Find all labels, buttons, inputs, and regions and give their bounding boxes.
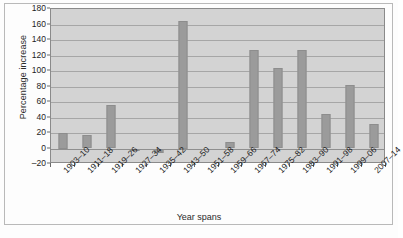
bar	[298, 50, 307, 148]
bar-slot	[314, 9, 338, 162]
bar-slot	[242, 9, 266, 162]
bar-slot	[362, 9, 385, 162]
x-axis-title: Year spans	[0, 212, 398, 222]
bar	[178, 21, 187, 149]
bar	[58, 133, 67, 149]
y-tick-label: 0	[16, 143, 46, 153]
bar-slot	[219, 9, 243, 162]
plot-area	[50, 8, 385, 163]
y-tick-label: 120	[16, 50, 46, 60]
bar	[346, 85, 355, 149]
y-tick-label: 40	[16, 112, 46, 122]
y-tick-label: 80	[16, 81, 46, 91]
bar-slot	[171, 9, 195, 162]
y-axis-tick-labels: 180160140120100806040200–20	[16, 8, 46, 163]
bar	[274, 68, 283, 149]
y-tick-label: 60	[16, 96, 46, 106]
y-tick-label: 160	[16, 19, 46, 29]
bar-slot	[195, 9, 219, 162]
bar-slot	[75, 9, 99, 162]
y-tick-label: 100	[16, 65, 46, 75]
bar-slot	[147, 9, 171, 162]
y-tick-label: 20	[16, 127, 46, 137]
y-tick-label: 180	[16, 3, 46, 13]
bar-series	[51, 9, 384, 162]
bar-slot	[290, 9, 314, 162]
bar	[250, 50, 259, 148]
bar-slot	[123, 9, 147, 162]
bar-slot	[51, 9, 75, 162]
bar-slot	[338, 9, 362, 162]
x-axis-tick-labels: 1903–101911–181919–261927–341935–421943–…	[50, 168, 385, 218]
bar-slot	[266, 9, 290, 162]
bar-slot	[99, 9, 123, 162]
x-tick-mark	[50, 163, 51, 167]
y-tick-label: 140	[16, 34, 46, 44]
bar	[106, 105, 115, 148]
y-tick-label: –20	[16, 158, 46, 168]
